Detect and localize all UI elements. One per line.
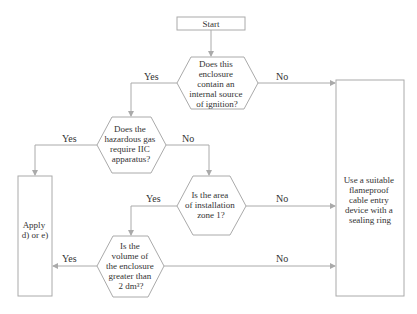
label-q2-no: No bbox=[182, 133, 194, 144]
action-flameproof-cable-entry: Use a suitable flameproof cable entry de… bbox=[336, 80, 404, 296]
decision-iic-apparatus: Does the hazardous gas require IIC appar… bbox=[97, 117, 166, 173]
edge-q2-no bbox=[166, 145, 209, 175]
action-apply-d-or-e: Apply d) or e) bbox=[18, 176, 52, 296]
flowchart: Yes No Yes No Yes No Yes No Start Does t… bbox=[0, 0, 417, 314]
action-text: Use a suitable flameproof cable entry de… bbox=[344, 175, 397, 225]
start-node: Start bbox=[177, 17, 245, 30]
edge-q1-yes bbox=[131, 83, 177, 116]
decision-enclosure-volume: Is the volume of the enclosure greater t… bbox=[97, 236, 164, 297]
label-q1-yes: Yes bbox=[144, 71, 159, 82]
start-label: Start bbox=[203, 19, 220, 29]
label-q2-yes: Yes bbox=[62, 133, 77, 144]
edge-q2-yes bbox=[35, 145, 97, 175]
label-q4-yes: Yes bbox=[62, 253, 77, 264]
edges bbox=[35, 30, 335, 266]
label-q3-no: No bbox=[276, 193, 288, 204]
label-q3-yes: Yes bbox=[146, 193, 161, 204]
decision-zone-1: Is the area of installation zone 1? bbox=[177, 176, 246, 235]
action-text: Apply d) or e) bbox=[22, 220, 49, 240]
decision-internal-ignition: Does this enclosure contain an internal … bbox=[177, 57, 258, 109]
label-q1-no: No bbox=[276, 71, 288, 82]
label-q4-no: No bbox=[276, 253, 288, 264]
edge-q3-yes bbox=[131, 206, 177, 235]
